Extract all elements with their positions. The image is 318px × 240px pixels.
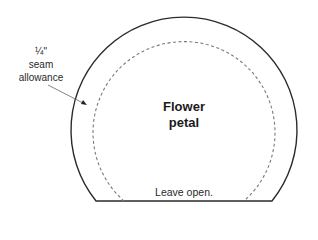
seam-allowance-label: ¼" seam allowance xyxy=(4,45,78,84)
seam-word: seam xyxy=(4,58,78,71)
title-line-2: petal xyxy=(134,115,234,131)
petal-title: Flower petal xyxy=(134,99,234,131)
allowance-word: allowance xyxy=(4,71,78,84)
leave-open-label: Leave open. xyxy=(134,186,234,199)
arrowhead-icon xyxy=(81,100,87,105)
seam-measure: ¼" xyxy=(4,45,78,58)
title-line-1: Flower xyxy=(134,99,234,115)
